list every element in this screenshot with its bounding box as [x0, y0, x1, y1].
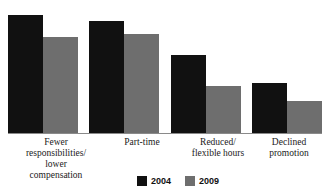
- category-label-line: Part-time: [104, 137, 180, 148]
- legend-item-2004: 2004: [137, 176, 171, 186]
- bar-2009: [206, 86, 241, 133]
- bar-group-part-time: 36% 32%: [89, 0, 159, 133]
- bar-group-reduced-flexible-hours: 25% 15%: [171, 0, 241, 133]
- category-label-line: Fewer: [8, 137, 104, 148]
- category-label-fewer-responsibilities: Fewer responsibilities/ lower compensati…: [8, 137, 104, 181]
- plot-area: 38% 31% 36% 32%: [0, 0, 328, 134]
- bar-2009: [287, 101, 322, 133]
- bar-2004: [8, 15, 43, 133]
- category-label-line: promotion: [256, 148, 322, 159]
- bar-group-fewer-responsibilities: 38% 31%: [8, 0, 78, 133]
- legend-label: 2009: [199, 176, 219, 186]
- bar-wrap-2004: 36%: [89, 0, 124, 133]
- bar-wrap-2009: 15%: [206, 0, 241, 133]
- legend-swatch-icon: [137, 176, 147, 186]
- category-label-reduced-flexible-hours: Reduced/ flexible hours: [180, 137, 256, 159]
- category-label-part-time: Part-time: [104, 137, 180, 148]
- bar-2004: [252, 83, 287, 133]
- category-label-line: Reduced/: [180, 137, 256, 148]
- bar-wrap-2009: 10%: [287, 0, 322, 133]
- bar-wrap-2004: 16%: [252, 0, 287, 133]
- bar-chart: 38% 31% 36% 32%: [0, 0, 328, 194]
- bar-wrap-2009: 31%: [43, 0, 78, 133]
- bar-wrap-2009: 32%: [124, 0, 159, 133]
- legend-item-2009: 2009: [185, 176, 219, 186]
- category-label-line: flexible hours: [180, 148, 256, 159]
- category-label-line: responsibilities/: [8, 148, 104, 159]
- bar-group-declined-promotion: 16% 10%: [252, 0, 322, 133]
- bar-2009: [124, 34, 159, 133]
- x-axis-category-labels: Fewer responsibilities/ lower compensati…: [8, 137, 322, 181]
- legend-swatch-icon: [185, 176, 195, 186]
- category-label-declined-promotion: Declined promotion: [256, 137, 322, 159]
- bar-wrap-2004: 25%: [171, 0, 206, 133]
- chart-legend: 2004 2009: [0, 176, 320, 186]
- bar-2009: [43, 37, 78, 133]
- category-label-line: Declined: [256, 137, 322, 148]
- bar-2004: [171, 55, 206, 133]
- legend-label: 2004: [151, 176, 171, 186]
- bar-groups: 38% 31% 36% 32%: [8, 0, 322, 133]
- bar-wrap-2004: 38%: [8, 0, 43, 133]
- bar-2004: [89, 21, 124, 133]
- category-label-line: lower: [8, 159, 104, 170]
- x-axis-line: [8, 133, 322, 134]
